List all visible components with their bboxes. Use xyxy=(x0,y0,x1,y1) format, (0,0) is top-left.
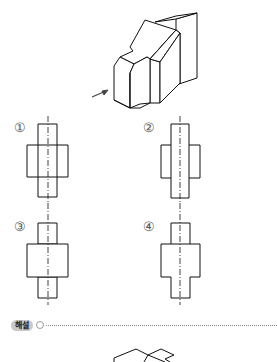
view-direction-arrow xyxy=(92,90,108,97)
option-1-label[interactable]: ① xyxy=(14,121,26,134)
option-3-middle-rect xyxy=(27,244,68,277)
edge-line xyxy=(148,355,165,362)
option-4-label[interactable]: ④ xyxy=(143,220,155,233)
option-2-drawing[interactable] xyxy=(161,116,200,203)
option-3-drawing[interactable] xyxy=(27,203,68,305)
explanation-figure xyxy=(114,349,174,362)
isometric-block xyxy=(114,13,197,108)
dotted-divider xyxy=(46,325,277,326)
option-3-top-rect xyxy=(38,223,57,244)
front-narrow-face xyxy=(150,59,160,103)
problem-figure xyxy=(0,0,277,362)
option-2-label[interactable]: ② xyxy=(143,121,155,134)
circle-bullet-icon xyxy=(36,321,44,329)
option-4-outline xyxy=(161,223,200,298)
explanation-badge: 해설 xyxy=(11,320,33,331)
option-4-drawing[interactable] xyxy=(161,203,200,305)
option-3-label[interactable]: ③ xyxy=(14,220,26,233)
option-1-narrow-rect xyxy=(38,124,57,197)
option-3-bottom-rect xyxy=(38,277,57,298)
option-1-drawing[interactable] xyxy=(27,116,68,203)
edge-line xyxy=(144,355,148,362)
